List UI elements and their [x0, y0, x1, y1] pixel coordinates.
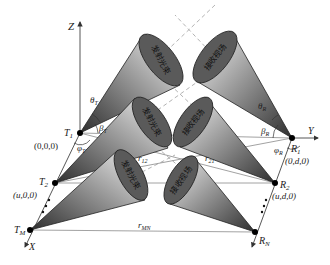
t1-point [77, 130, 83, 136]
rn-label: RN [258, 235, 270, 248]
z-axis-label: Z [68, 20, 75, 32]
phi-t-label: φT [77, 143, 86, 154]
t2-label: T2 [39, 176, 49, 189]
t2-coord: (u,0,0) [13, 190, 37, 200]
r2-coord: (u,d,0) [272, 191, 296, 201]
tm-point [27, 227, 33, 233]
beta-t-label: βT [98, 123, 107, 134]
rmn-label: rMN [138, 220, 152, 231]
bistatic-geometry-diagram: 发射光束 发射光束 发射光束 接收视场 接收视场 接收视场 [0, 0, 330, 265]
r1-coord: (0,d,0) [285, 156, 309, 166]
y-axis-label: Y [308, 125, 315, 136]
beta-r-label: βR [260, 126, 269, 137]
t1-coord: (0,0,0) [34, 141, 58, 151]
r1-label: R1 [290, 143, 301, 156]
tm-label: TM [14, 224, 27, 237]
x-axis-label: X [28, 241, 36, 252]
phi-r-label: φR [274, 145, 283, 156]
rn-point [252, 229, 258, 235]
r2-point [272, 180, 278, 186]
t1-label: T1 [64, 127, 73, 140]
r1-point [289, 135, 295, 141]
theta-t-label: θT [90, 95, 98, 106]
t2-point [52, 180, 58, 186]
